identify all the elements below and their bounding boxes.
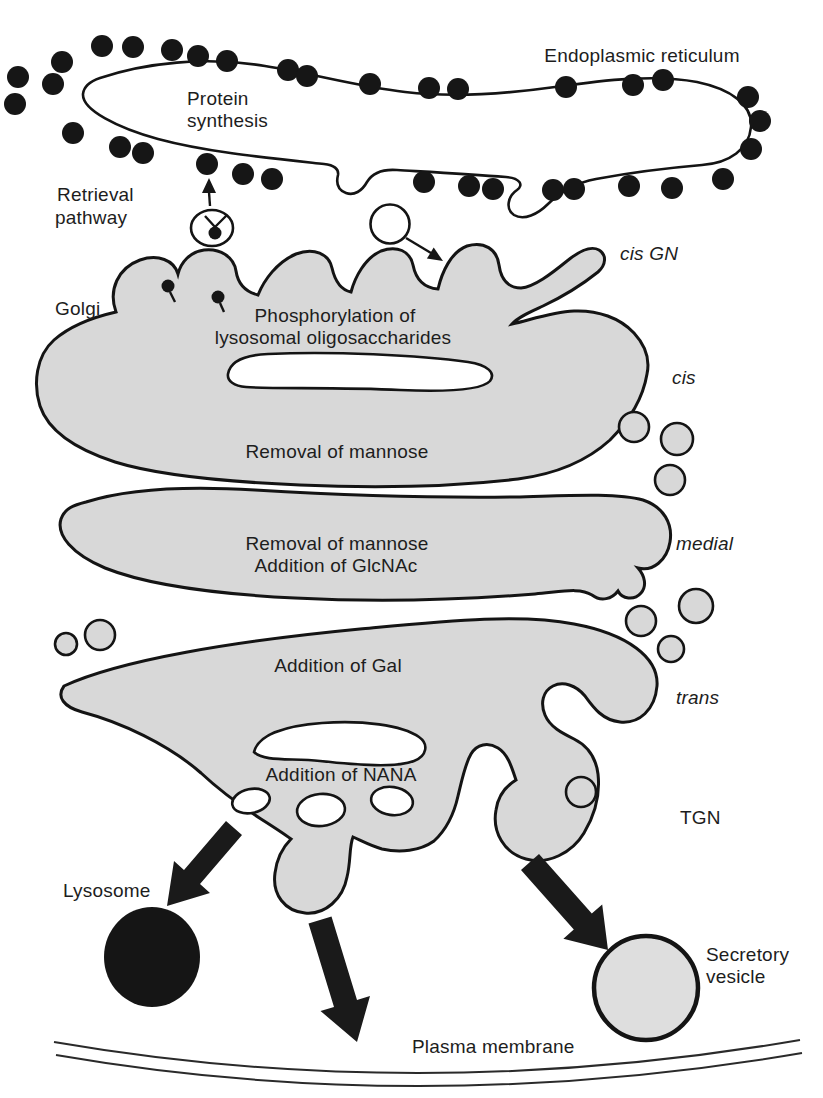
shuttle-vesicle <box>658 636 684 662</box>
shuttle-vesicle <box>85 620 115 650</box>
label-tgn: TGN <box>680 807 721 828</box>
label-golgi: Golgi <box>55 298 100 319</box>
label-medial: medial <box>676 533 734 554</box>
shuttle-vesicle <box>619 412 649 442</box>
plasma-membrane-arrow <box>309 917 371 1043</box>
vesicle-to-er-arrow <box>209 192 210 206</box>
label-lysosome: Lysosome <box>63 880 151 901</box>
label-cis-gn: cis GN <box>620 243 678 264</box>
label-removal-mannose-cis: Removal of mannose <box>245 441 428 462</box>
shuttle-vesicle <box>679 589 713 623</box>
label-phosphorylation-line1: Phosphorylation of <box>255 305 417 326</box>
shuttle-vesicle <box>661 423 693 455</box>
label-phosphorylation-line2: lysosomal oligosaccharides <box>215 327 451 348</box>
label-plasma-membrane: Plasma membrane <box>412 1036 574 1057</box>
label-endoplasmic-reticulum: Endoplasmic reticulum <box>544 45 739 66</box>
vesicle-to-er-arrowhead <box>202 178 216 193</box>
retrieval-cargo-dot <box>209 227 222 240</box>
lysosome-body <box>104 907 200 1007</box>
er-membrane <box>83 61 751 217</box>
shuttle-vesicle <box>55 633 77 655</box>
shuttle-vesicle <box>655 465 685 495</box>
label-medial-line2: Addition of GlcNAc <box>254 555 417 576</box>
label-protein-synthesis-line2: synthesis <box>187 110 268 131</box>
er-to-golgi-arrowhead <box>427 248 443 261</box>
label-addition-nana: Addition of NANA <box>265 764 416 785</box>
secretory-vesicle-arrow <box>521 854 608 950</box>
lysosome-arrow <box>167 821 242 906</box>
label-addition-gal: Addition of Gal <box>274 655 402 676</box>
secretory-vesicle-body <box>594 936 698 1040</box>
label-protein-synthesis-line1: Protein <box>187 88 249 109</box>
coated-bud-dot-2 <box>212 291 225 304</box>
label-medial-line1: Removal of mannose <box>245 533 428 554</box>
er-to-golgi-arrow <box>406 238 431 253</box>
transport-vesicle-membrane <box>371 205 410 244</box>
diagram-canvas: Endoplasmic reticulum Protein synthesis … <box>0 0 823 1098</box>
label-secretory-vesicle-line1: Secretory <box>706 944 789 965</box>
label-trans: trans <box>676 687 720 708</box>
label-secretory-vesicle-line2: vesicle <box>706 966 765 987</box>
shuttle-vesicle <box>626 606 656 636</box>
shuttle-vesicle <box>566 777 596 807</box>
coated-bud-dot-1 <box>162 280 175 293</box>
label-cis: cis <box>672 367 696 388</box>
label-retrieval-pathway-line2: pathway <box>55 207 127 228</box>
label-retrieval-pathway-line1: Retrieval <box>57 184 134 205</box>
